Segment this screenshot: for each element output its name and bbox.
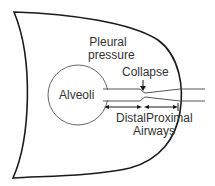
airways-label: Airways	[133, 125, 175, 138]
alveoli-label: Alveoli	[59, 89, 94, 102]
proximal-right-arrowhead	[173, 105, 178, 109]
collapse-label: Collapse	[122, 66, 169, 79]
airway-collapse-diagram: Pleural pressure Collapse Alveoli Distal…	[0, 0, 215, 186]
pleural-pressure-label: Pleural pressure	[88, 36, 128, 62]
airway-upper-wall	[103, 89, 205, 93]
pleural-label-line2: pressure	[88, 49, 128, 62]
diagram-graphics	[0, 0, 215, 186]
airway-lower-wall	[103, 97, 205, 101]
distal-right-arrowhead	[137, 105, 142, 109]
proximal-left-arrowhead	[144, 105, 149, 109]
